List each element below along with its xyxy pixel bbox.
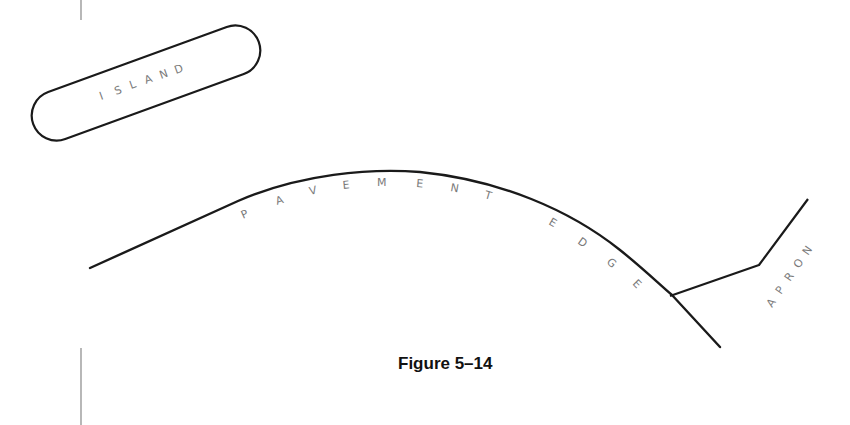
pavement-letter: G	[604, 255, 619, 270]
pavement-letter: A	[274, 193, 286, 208]
pavement-letter: D	[575, 235, 589, 251]
apron-letter: N	[800, 244, 815, 258]
pavement-letter: E	[416, 177, 424, 191]
figure-caption: Figure 5–14	[398, 354, 493, 374]
apron-line	[670, 199, 808, 296]
pavement-letter: V	[308, 184, 319, 198]
pavement-letter: T	[482, 188, 493, 203]
pavement-letter: P	[239, 207, 251, 222]
island-letter: A	[143, 72, 155, 87]
apron-letter: A	[764, 296, 779, 310]
island-letter: N	[158, 67, 170, 82]
pavement-letter: E	[547, 215, 560, 230]
pavement-edge-label: P A V E M E N T E D G E	[239, 176, 644, 291]
island-letter: D	[173, 62, 185, 77]
apron-label: A P R O N	[764, 244, 815, 310]
island-label: I S L A N D	[98, 62, 185, 103]
apron-letter: P	[773, 284, 788, 297]
pavement-letter: N	[449, 181, 459, 195]
apron-letter: R	[782, 270, 797, 284]
apron-letter: O	[791, 256, 807, 271]
island-letter: L	[128, 77, 139, 92]
pavement-letter: E	[342, 178, 350, 192]
pavement-letter: M	[377, 176, 387, 189]
pavement-letter: E	[630, 277, 644, 291]
island-letter: S	[113, 83, 124, 98]
island-letter: I	[98, 89, 106, 102]
pavement-edge-line	[90, 171, 720, 347]
